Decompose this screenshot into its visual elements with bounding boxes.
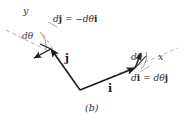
- connector-dj-base: [40, 44, 51, 49]
- vector-j-label: j: [65, 53, 69, 64]
- figure-caption: (b): [85, 103, 99, 113]
- equation-di-rhs-vector: j: [165, 73, 168, 83]
- equation-di-rhs-dtheta: dθ: [153, 73, 164, 83]
- y-axis-label: y: [23, 6, 28, 16]
- equation-dj-rhs-dtheta: dθ: [83, 14, 94, 24]
- dtheta-label-right: dθ: [131, 53, 142, 62]
- equation-di-equals: =: [140, 73, 153, 83]
- vector-rotation-diagram: y x dθ dθ j i dj = −dθi di = dθj (b): [0, 0, 187, 121]
- equation-dj: dj = −dθi: [53, 15, 97, 24]
- dtheta-label-left: dθ: [22, 32, 33, 41]
- x-axis-label: x: [158, 52, 163, 62]
- equation-dj-equals: = −: [62, 14, 83, 24]
- vector-dj: [34, 49, 51, 58]
- equation-dj-rhs-vector: i: [94, 14, 97, 24]
- vector-i-label: i: [108, 83, 112, 94]
- equation-di: di = dθj: [131, 74, 168, 83]
